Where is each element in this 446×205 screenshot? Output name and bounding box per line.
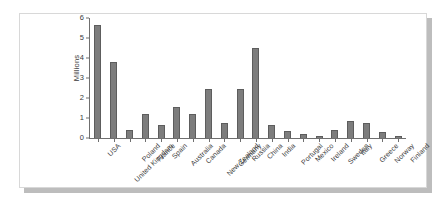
bar <box>237 89 244 138</box>
bar <box>268 125 275 138</box>
bar <box>300 134 307 138</box>
y-axis-tick-label: 1 <box>80 114 84 122</box>
bar <box>94 25 101 138</box>
y-axis-tick-label: 3 <box>80 74 84 82</box>
chart-card: Millions 0123456 USAUnited KingdomPoland… <box>19 13 427 188</box>
y-axis-tick-label: 4 <box>80 54 84 62</box>
x-axis-tick-label: Italy <box>359 142 373 156</box>
bar <box>173 107 180 138</box>
y-axis-tick-label: 0 <box>80 134 84 142</box>
bar <box>158 125 165 138</box>
bar <box>110 62 117 138</box>
bar <box>395 136 402 138</box>
bar <box>189 114 196 138</box>
x-axis-tick-labels: USAUnited KingdomPolandFranceSpainAustra… <box>90 142 420 188</box>
bar <box>205 89 212 138</box>
x-axis-tick-label: USA <box>106 142 121 157</box>
bar <box>379 132 386 138</box>
bar <box>363 123 370 138</box>
bar <box>331 130 338 138</box>
bar <box>347 121 354 138</box>
bar <box>142 114 149 138</box>
y-axis-tick-label: 5 <box>80 34 84 42</box>
bar-series <box>90 14 406 138</box>
x-axis-tick-label: India <box>280 142 296 158</box>
bar-chart: Millions 0123456 USAUnited KingdomPoland… <box>20 14 428 189</box>
bar <box>126 130 133 138</box>
bar <box>252 48 259 138</box>
y-axis-tick-label: 2 <box>80 94 84 102</box>
bar <box>284 131 291 138</box>
bar <box>316 136 323 138</box>
y-axis-tick-labels: 0123456 <box>64 14 84 189</box>
y-axis-tick-label: 6 <box>80 14 84 22</box>
bar <box>221 123 228 138</box>
chart-screenshot: Millions 0123456 USAUnited KingdomPoland… <box>0 0 446 205</box>
